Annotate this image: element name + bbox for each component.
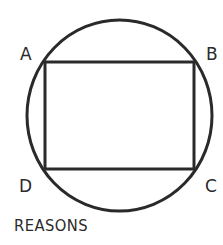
vertex-label-c: C bbox=[205, 178, 217, 195]
vertex-label-a: A bbox=[20, 46, 32, 63]
vertex-label-b: B bbox=[206, 46, 218, 63]
geometry-figure bbox=[0, 0, 223, 245]
circumscribed-circle bbox=[27, 20, 212, 211]
vertex-label-d: D bbox=[19, 178, 32, 195]
inscribed-rectangle bbox=[45, 62, 194, 169]
caption-reasons: REASONS bbox=[14, 216, 88, 235]
